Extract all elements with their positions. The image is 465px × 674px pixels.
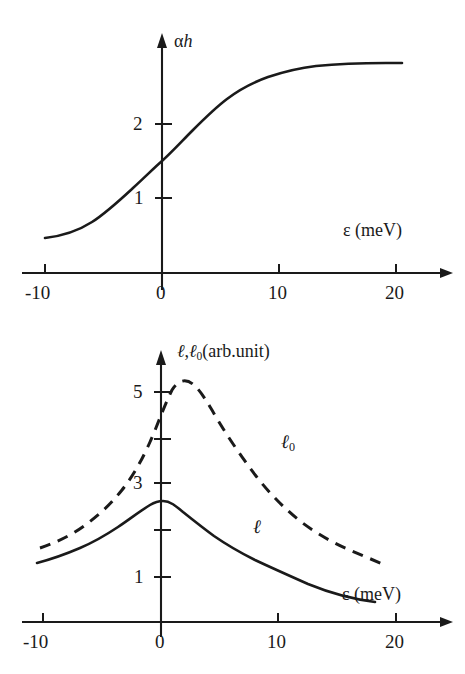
y-tick-label-3-bottom: 3 (133, 473, 143, 492)
x-ticks-top (45, 264, 396, 273)
chart-panel-top: αh ε (meV) 2 1 -10 0 10 20 (0, 0, 465, 337)
ell-symbol: ℓ (177, 341, 185, 361)
ell-zero-glyph: ℓ (281, 431, 289, 452)
x-axis-bottom (22, 617, 453, 627)
x-tick-label-0-bottom: 0 (155, 632, 165, 651)
x-tick-label-neg10-bottom: -10 (23, 632, 48, 651)
curve-l-solid (37, 501, 375, 602)
x-axis-title-top: ε (meV) (343, 221, 402, 239)
epsilon-symbol: ε (343, 220, 351, 240)
unit-arb: (arb.unit) (202, 341, 269, 361)
y-tick-label-1-top: 1 (134, 188, 144, 207)
x-tick-label-10-bottom: 10 (267, 632, 286, 651)
curve-annotation-l0: ℓ0 (281, 432, 295, 453)
unit-mev: (meV) (355, 220, 402, 240)
figure-container: αh ε (meV) 2 1 -10 0 10 20 (0, 0, 465, 674)
x-tick-label-neg10-top: -10 (25, 283, 50, 302)
chart-panel-bottom: ℓ,ℓ0(arb.unit) ε (meV) 5 3 1 -10 0 10 20… (0, 337, 465, 674)
x-ticks-bottom (43, 613, 396, 622)
curve-annotation-l: ℓ (253, 517, 261, 536)
x-axis-title-bottom: ε (meV) (342, 585, 401, 603)
x-tick-label-10-top: 10 (268, 283, 287, 302)
y-tick-label-2-top: 2 (133, 114, 143, 133)
x-tick-label-20-top: 20 (385, 283, 404, 302)
x-tick-label-20-bottom: 20 (385, 632, 404, 651)
y-axis-bottom (156, 350, 166, 637)
ell-zero-symbol: ℓ (189, 341, 197, 361)
y-tick-label-1-bottom: 1 (134, 567, 144, 586)
x-axis-top (22, 268, 453, 278)
ell-zero-glyph-subscript: 0 (289, 440, 295, 454)
curve-l0-dashed (40, 381, 387, 566)
curve-alpha-h (45, 63, 402, 238)
h-symbol: h (183, 31, 192, 51)
y-axis-title-bottom: ℓ,ℓ0(arb.unit) (177, 342, 270, 363)
x-tick-label-0-top: 0 (156, 283, 166, 302)
epsilon-symbol: ε (342, 584, 350, 604)
y-ticks-bottom (154, 392, 171, 577)
chart-bottom-svg (0, 337, 465, 674)
y-axis-title-top: αh (174, 32, 192, 50)
y-tick-label-5-bottom: 5 (133, 382, 143, 401)
unit-mev: (meV) (354, 584, 401, 604)
